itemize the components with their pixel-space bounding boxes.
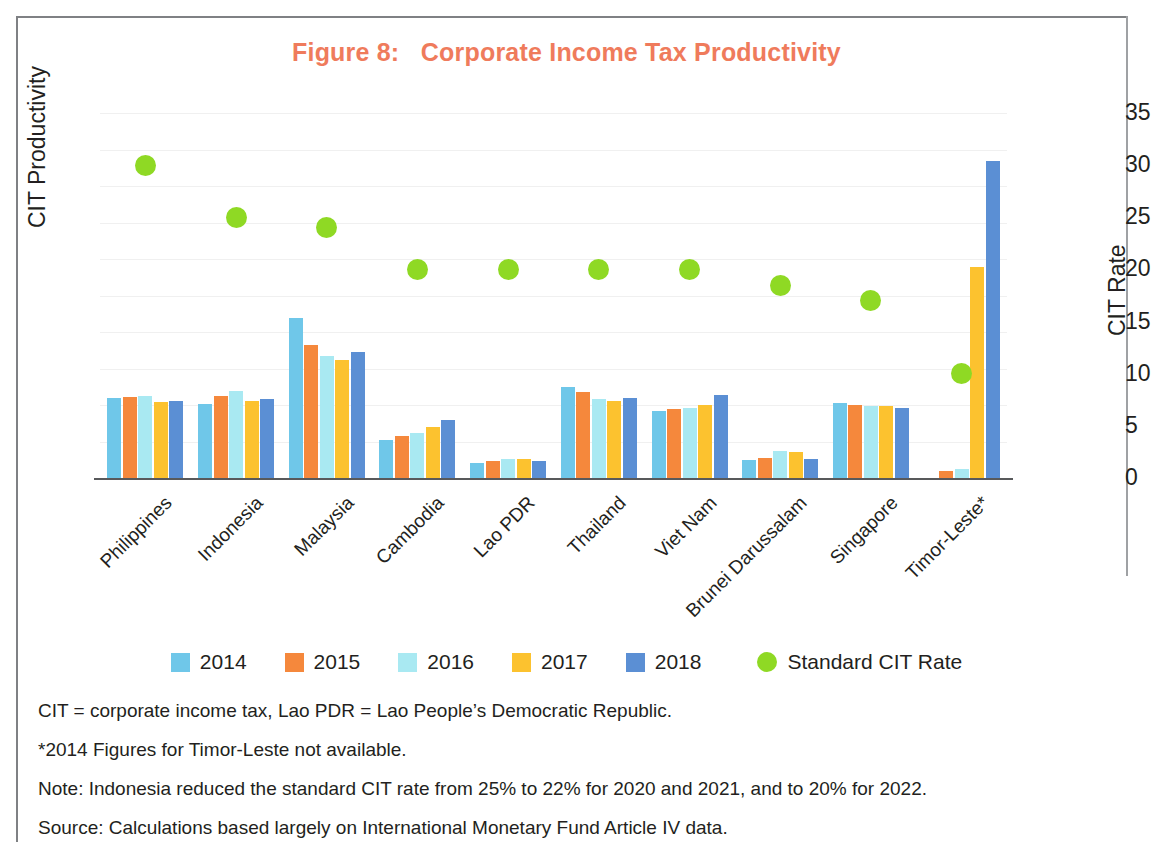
- scatter-point: [860, 290, 881, 311]
- figure-notes: CIT = corporate income tax, Lao PDR = La…: [38, 700, 1108, 856]
- gridline: [100, 113, 1007, 114]
- bar: [501, 459, 515, 478]
- bar: [758, 458, 772, 478]
- bar: [592, 399, 606, 478]
- figure-frame-left: [16, 16, 18, 842]
- bar: [532, 461, 546, 478]
- bar: [260, 399, 274, 478]
- bar: [229, 391, 243, 478]
- bar: [970, 267, 984, 478]
- scatter-point: [588, 259, 609, 280]
- bar: [848, 405, 862, 478]
- legend-item-2015[interactable]: 2015: [285, 650, 361, 674]
- scatter-point: [135, 155, 156, 176]
- bar: [833, 403, 847, 478]
- bar: [652, 411, 666, 478]
- bar: [773, 451, 787, 478]
- legend-item-2018[interactable]: 2018: [626, 650, 702, 674]
- bar: [789, 452, 803, 478]
- figure-note: *2014 Figures for Timor-Leste not availa…: [38, 739, 1108, 761]
- bar: [683, 408, 697, 478]
- y-axis-right-tick-label: 15: [1125, 308, 1155, 335]
- legend-label: 2016: [427, 650, 474, 674]
- y-axis-right-tick-label: 25: [1125, 203, 1155, 230]
- bar: [986, 161, 1000, 478]
- bar: [864, 406, 878, 478]
- y-axis-right-tick-label: 10: [1125, 360, 1155, 387]
- bar: [289, 318, 303, 478]
- bar: [895, 408, 909, 478]
- legend-swatch-icon: [512, 653, 531, 672]
- bar: [667, 409, 681, 478]
- y-axis-right-tick-label: 35: [1125, 99, 1155, 126]
- bar: [154, 402, 168, 478]
- bar: [698, 405, 712, 478]
- bar: [351, 352, 365, 478]
- bar: [576, 392, 590, 478]
- figure-note: CIT = corporate income tax, Lao PDR = La…: [38, 700, 1108, 722]
- legend-item-standard-cit-rate[interactable]: Standard CIT Rate: [757, 650, 962, 674]
- bar: [169, 401, 183, 478]
- figure-note: Note: Indonesia reduced the standard CIT…: [38, 778, 1108, 800]
- legend-swatch-icon: [171, 653, 190, 672]
- figure-note: Source: Calculations based largely on In…: [38, 817, 1108, 839]
- scatter-point: [951, 363, 972, 384]
- bar: [198, 404, 212, 478]
- y-axis-right-tick-label: 5: [1125, 412, 1155, 439]
- bar: [714, 395, 728, 478]
- bar: [879, 406, 893, 478]
- figure-title: Figure 8: Corporate Income Tax Productiv…: [0, 38, 1133, 67]
- figure-frame-top: [16, 16, 1128, 18]
- legend-label: 2014: [200, 650, 247, 674]
- bar: [426, 427, 440, 478]
- y-axis-left-title: CIT Productivity: [24, 66, 51, 228]
- bar: [623, 398, 637, 478]
- x-axis-line: [94, 478, 1013, 480]
- bar: [607, 401, 621, 478]
- legend-item-2014[interactable]: 2014: [171, 650, 247, 674]
- bar: [304, 345, 318, 478]
- legend-dot-icon: [757, 652, 777, 672]
- bar: [441, 420, 455, 478]
- bar: [395, 436, 409, 478]
- legend-item-2017[interactable]: 2017: [512, 650, 588, 674]
- chart-legend: 20142015201620172018Standard CIT Rate: [0, 650, 1133, 674]
- gridline: [100, 150, 1007, 151]
- bar: [410, 433, 424, 478]
- gridline: [100, 259, 1007, 260]
- scatter-point: [226, 207, 247, 228]
- bar: [138, 396, 152, 478]
- legend-label: Standard CIT Rate: [787, 650, 962, 674]
- y-axis-right-tick-label: 30: [1125, 151, 1155, 178]
- bar: [214, 396, 228, 478]
- scatter-point: [679, 259, 700, 280]
- bar: [379, 440, 393, 478]
- legend-swatch-icon: [626, 653, 645, 672]
- bar: [486, 461, 500, 478]
- bar: [517, 459, 531, 478]
- gridline: [100, 186, 1007, 187]
- gridline: [100, 369, 1007, 370]
- plot-area: 00.10.20.30.40.50.60.70.80.91 0510152025…: [100, 113, 1007, 478]
- bar: [107, 398, 121, 478]
- legend-item-2016[interactable]: 2016: [398, 650, 474, 674]
- scatter-point: [498, 259, 519, 280]
- bar: [335, 360, 349, 478]
- scatter-point: [316, 217, 337, 238]
- y-axis-right-tick-label: 20: [1125, 255, 1155, 282]
- y-axis-right-tick-label: 0: [1125, 464, 1155, 491]
- bar: [804, 459, 818, 478]
- bar: [470, 463, 484, 478]
- bar: [320, 356, 334, 478]
- bar: [955, 469, 969, 478]
- scatter-point: [770, 275, 791, 296]
- legend-swatch-icon: [398, 653, 417, 672]
- gridline: [100, 332, 1007, 333]
- bar: [123, 397, 137, 478]
- legend-swatch-icon: [285, 653, 304, 672]
- bar: [561, 387, 575, 478]
- scatter-point: [407, 259, 428, 280]
- legend-label: 2017: [541, 650, 588, 674]
- bar: [742, 460, 756, 478]
